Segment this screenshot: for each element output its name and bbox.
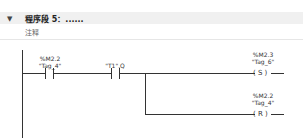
network-comment[interactable]: 注释 bbox=[25, 27, 39, 37]
coil1-address: %M2.3 bbox=[243, 51, 283, 58]
coil2-tag: "Tag_4" bbox=[243, 99, 283, 106]
reset-coil[interactable]: ( R ) bbox=[253, 110, 268, 118]
contact1-no-contact[interactable] bbox=[45, 68, 54, 79]
set-coil[interactable]: ( S ) bbox=[253, 69, 267, 77]
rung-wire bbox=[22, 73, 45, 74]
coil1-tag: "Tag_6" bbox=[243, 58, 283, 65]
coil2-address: %M2.2 bbox=[243, 92, 283, 99]
rung-wire bbox=[120, 73, 255, 74]
power-rail bbox=[22, 50, 23, 138]
branch-wire bbox=[271, 114, 284, 115]
contact1-address: %M2.2 bbox=[30, 55, 70, 62]
contact2-no-contact[interactable] bbox=[111, 68, 120, 79]
branch-wire bbox=[145, 73, 146, 114]
rung-wire bbox=[271, 73, 284, 74]
branch-wire bbox=[145, 114, 255, 115]
triangle-down-icon[interactable]: ▼ bbox=[7, 15, 12, 23]
rung-wire bbox=[54, 73, 111, 74]
divider bbox=[0, 39, 303, 40]
network-title: 程序段 5：...... bbox=[25, 13, 84, 24]
